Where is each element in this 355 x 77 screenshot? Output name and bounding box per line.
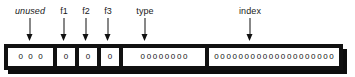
arrow-down-icon-f2 (82, 18, 91, 42)
field-cell-f3: 0 (100, 47, 120, 67)
field-cell-f2: 0 (78, 47, 98, 67)
arrow-down-icon-f3 (104, 18, 113, 42)
field-label-f1: f1 (60, 6, 68, 16)
field-label-f2: f2 (82, 6, 90, 16)
field-cell-unused: 0 0 0 (7, 47, 54, 67)
field-bits-f1: 0 (62, 53, 70, 61)
field-cell-f1: 0 (56, 47, 76, 67)
arrow-down-icon-index (246, 18, 255, 42)
arrow-down-icon-f1 (60, 18, 69, 42)
field-bits-unused: 0 0 0 (17, 53, 44, 61)
field-cell-type: 00000000 (122, 47, 206, 67)
arrow-down-icon-type (141, 18, 150, 42)
field-label-unused: unused (15, 6, 45, 16)
field-label-index: index (239, 6, 261, 16)
field-label-type: type (136, 6, 153, 16)
field-label-f3: f3 (104, 6, 112, 16)
field-cell-index: 00000000000000000000 (208, 47, 340, 67)
field-bits-f3: 0 (106, 53, 114, 61)
field-bits-f2: 0 (84, 53, 92, 61)
arrow-down-icon-unused (26, 18, 35, 42)
field-bits-type: 00000000 (139, 53, 189, 61)
bitfield-bar: 0 0 0 0 0 0 00000000 0000000000000000000… (4, 44, 343, 70)
bitfield-diagram: unused f1 f2 f3 type index (0, 0, 355, 77)
field-bits-index: 00000000000000000000 (213, 53, 336, 61)
